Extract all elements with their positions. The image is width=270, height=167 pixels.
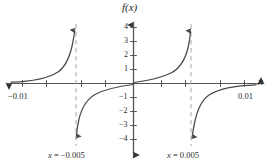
curve-upper-right-branch <box>134 31 191 83</box>
x-end-label-right: 0.01 <box>238 92 253 101</box>
y-tick-label-neg1: −1 <box>119 93 128 101</box>
function-graph-figure: f(x) x 4 3 2 1 −1 −2 −3 −4 −0.01 0.01 x … <box>0 0 270 167</box>
y-tick-label-3: 3 <box>124 37 128 45</box>
y-tick-label-neg2: −2 <box>119 107 128 115</box>
asymptote-label-left-value: = −0.005 <box>52 150 85 160</box>
curve-upper-left-branch <box>11 31 75 83</box>
y-tick-label-4: 4 <box>124 23 128 31</box>
y-tick-label-2: 2 <box>124 51 128 59</box>
y-axis-title: f(x) <box>122 2 137 13</box>
plot-canvas <box>0 0 270 167</box>
y-tick-label-1: 1 <box>124 65 128 73</box>
y-tick-label-neg3: −3 <box>119 121 128 129</box>
y-tick-label-neg4: −4 <box>119 135 128 143</box>
asymptote-label-left: x = −0.005 <box>48 151 85 160</box>
x-end-label-left: −0.01 <box>8 92 28 101</box>
x-axis-title: x <box>258 76 263 87</box>
asymptote-label-right: x = 0.005 <box>167 151 199 160</box>
asymptote-label-right-value: = 0.005 <box>171 150 199 160</box>
